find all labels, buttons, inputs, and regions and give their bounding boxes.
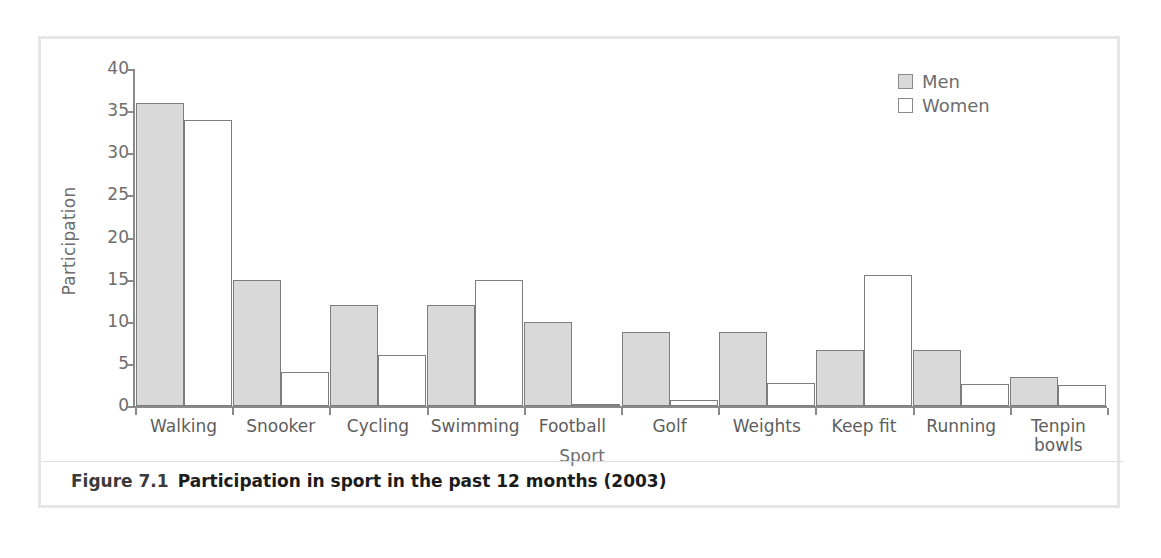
x-axis-tick-mark <box>913 408 915 415</box>
chart-legend: MenWomen <box>898 69 990 117</box>
figure-caption: Figure 7.1Participation in sport in the … <box>71 471 666 491</box>
y-axis-tick-label: 15 <box>73 271 129 288</box>
figure-caption-text: Participation in sport in the past 12 mo… <box>178 471 667 491</box>
bar-women-cycling <box>378 355 426 406</box>
bar-women-football <box>572 404 620 406</box>
y-axis-tick-label: 20 <box>73 229 129 246</box>
x-axis-tick-mark <box>621 408 623 415</box>
y-axis-tick-mark <box>127 111 134 113</box>
x-axis-tick-mark <box>329 408 331 415</box>
y-axis-tick-label: 0 <box>73 397 129 414</box>
bar-women-snooker <box>281 372 329 406</box>
bar-women-swimming <box>475 280 523 406</box>
legend-label-women: Women <box>922 95 990 116</box>
women-swatch-icon <box>898 98 913 113</box>
y-axis-tick-mark <box>127 69 134 71</box>
x-axis-tick-mark <box>427 408 429 415</box>
y-axis-tick-label: 10 <box>73 313 129 330</box>
x-axis-label-running: Running <box>913 417 1010 436</box>
x-axis-title: Sport <box>41 446 1123 466</box>
x-axis-tick-mark <box>232 408 234 415</box>
bar-men-cycling <box>330 305 378 406</box>
bar-men-tenpin-bowls <box>1010 377 1058 406</box>
y-axis-tick-mark <box>127 238 134 240</box>
bar-men-swimming <box>427 305 475 406</box>
bar-men-football <box>524 322 572 406</box>
x-axis-label-keep-fit: Keep fit <box>815 417 912 436</box>
y-axis-tick-label: 30 <box>73 144 129 161</box>
y-axis-tick-mark <box>127 153 134 155</box>
y-axis-tick-label: 5 <box>73 355 129 372</box>
x-axis-tick-mark <box>815 408 817 415</box>
x-axis-tick-mark <box>718 408 720 415</box>
x-axis-label-walking: Walking <box>135 417 232 436</box>
bar-men-golf <box>622 332 670 406</box>
bar-men-running <box>913 350 961 406</box>
legend-item-women: Women <box>898 93 990 117</box>
y-axis-tick-label: 35 <box>73 102 129 119</box>
bar-men-snooker <box>233 280 281 406</box>
y-axis-tick-mark <box>127 406 134 408</box>
x-axis-tick-mark <box>135 408 137 415</box>
bar-women-tenpin-bowls <box>1058 385 1106 406</box>
y-axis-tick-mark <box>127 322 134 324</box>
bar-women-weights <box>767 383 815 406</box>
legend-label-men: Men <box>922 71 960 92</box>
bar-men-walking <box>136 103 184 406</box>
y-axis-tick-mark <box>127 364 134 366</box>
y-axis-tick-label: 25 <box>73 186 129 203</box>
caption-divider <box>41 461 1123 462</box>
x-axis-label-tenpin-bowls: Tenpin bowls <box>1010 417 1107 455</box>
x-axis-tick-mark <box>1107 408 1109 415</box>
x-axis-label-golf: Golf <box>621 417 718 436</box>
men-swatch-icon <box>898 74 913 89</box>
y-axis-tick-label: 40 <box>73 60 129 77</box>
figure-frame: Participation Sport 0510152025303540 Wal… <box>38 36 1120 508</box>
bar-women-keep-fit <box>864 275 912 406</box>
x-axis-tick-mark <box>1010 408 1012 415</box>
x-axis-tick-mark <box>524 408 526 415</box>
x-axis-label-swimming: Swimming <box>427 417 524 436</box>
bar-women-walking <box>184 120 232 406</box>
bar-men-keep-fit <box>816 350 864 406</box>
bar-men-weights <box>719 332 767 406</box>
bar-chart: Participation Sport 0510152025303540 Wal… <box>41 39 1123 511</box>
x-axis-label-cycling: Cycling <box>329 417 426 436</box>
bar-women-golf <box>670 400 718 406</box>
bar-women-running <box>961 384 1009 406</box>
x-axis-label-football: Football <box>524 417 621 436</box>
legend-item-men: Men <box>898 69 990 93</box>
x-axis-label-snooker: Snooker <box>232 417 329 436</box>
y-axis-tick-mark <box>127 195 134 197</box>
x-axis-label-weights: Weights <box>718 417 815 436</box>
y-axis-tick-mark <box>127 280 134 282</box>
figure-number: Figure 7.1 <box>71 471 169 491</box>
